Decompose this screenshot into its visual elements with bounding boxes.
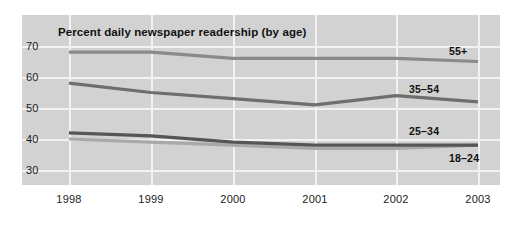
series-line-55-plus xyxy=(69,52,478,61)
series-label-55-plus: 55+ xyxy=(449,45,467,57)
chart-figure: Percent daily newspaper readership (by a… xyxy=(0,0,523,231)
series-label-35-54: 35–54 xyxy=(409,83,439,95)
y-axis-tick-50: 50 xyxy=(26,102,52,114)
x-axis-tick-2000: 2000 xyxy=(203,193,263,205)
x-axis-tick-2002: 2002 xyxy=(366,193,426,205)
series-lines-layer xyxy=(22,15,500,185)
series-label-25-34: 25–34 xyxy=(409,125,439,137)
y-axis-tick-40: 40 xyxy=(26,133,52,145)
y-axis-tick-60: 60 xyxy=(26,71,52,83)
x-axis-tick-1998: 1998 xyxy=(39,193,99,205)
x-axis-tick-2001: 2001 xyxy=(285,193,345,205)
chart-title: Percent daily newspaper readership (by a… xyxy=(58,26,306,38)
y-axis-tick-30: 30 xyxy=(26,164,52,176)
x-axis-tick-1999: 1999 xyxy=(121,193,181,205)
y-axis-tick-70: 70 xyxy=(26,40,52,52)
series-label-18-24: 18–24 xyxy=(449,152,479,164)
x-axis-tick-2003: 2003 xyxy=(448,193,508,205)
